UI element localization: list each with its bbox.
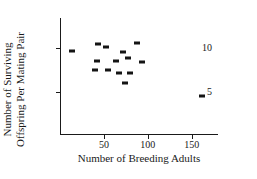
data-point bbox=[95, 43, 101, 46]
data-point bbox=[103, 45, 109, 48]
data-point bbox=[69, 49, 75, 52]
data-point bbox=[94, 60, 100, 63]
x-tick-label: 150 bbox=[184, 140, 199, 150]
scatter-plot-figure: 510 50100150 Number of Breeding Adults N… bbox=[0, 0, 257, 179]
data-point bbox=[122, 82, 128, 85]
plot-area: 510 50100150 bbox=[60, 18, 218, 135]
x-axis-line bbox=[60, 134, 218, 135]
data-point bbox=[105, 69, 111, 72]
y-tick-label: 5 bbox=[207, 87, 212, 97]
x-tick-label: 50 bbox=[99, 140, 109, 150]
data-point bbox=[116, 72, 122, 75]
y-axis-title-line-2: Offspring Per Mating Pair bbox=[14, 0, 27, 179]
y-axis-line bbox=[60, 18, 61, 135]
data-point bbox=[199, 95, 205, 98]
y-axis-title-line-1: Number of Surviving bbox=[1, 0, 14, 179]
y-tick-mark bbox=[56, 92, 60, 93]
y-tick-mark bbox=[56, 48, 60, 49]
x-axis-title: Number of Breeding Adults bbox=[60, 152, 218, 164]
y-axis-title: Number of Surviving Offspring Per Mating… bbox=[0, 0, 28, 179]
data-point bbox=[113, 60, 119, 63]
data-point bbox=[92, 69, 98, 72]
y-tick-label: 10 bbox=[202, 43, 212, 53]
data-point bbox=[127, 71, 133, 74]
data-point bbox=[120, 50, 126, 53]
data-point bbox=[134, 42, 140, 45]
x-tick-label: 100 bbox=[140, 140, 155, 150]
data-point bbox=[125, 56, 131, 59]
data-point bbox=[139, 61, 145, 64]
